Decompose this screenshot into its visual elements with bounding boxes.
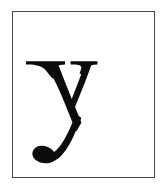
- specimen-canvas: y: [0, 0, 167, 191]
- letter-y-hairline-diagonal: [68, 64, 91, 115]
- letter-y-glyph: [13, 12, 154, 177]
- letter-y-ball-terminal: [32, 146, 55, 163]
- glyph-area: y: [13, 12, 154, 177]
- specimen-frame-border: y: [12, 11, 155, 178]
